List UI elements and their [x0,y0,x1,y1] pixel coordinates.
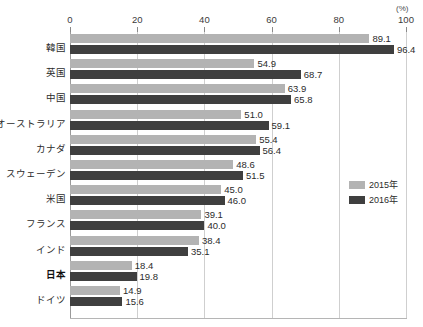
bar-row: スウェーデン48.651.5 [0,160,423,180]
bar-value-中国-2016年: 65.8 [294,95,313,104]
bar-value-カナダ-2015年: 55.4 [259,135,278,144]
legend-item-2015年[interactable]: 2015年 [349,178,398,191]
bar-value-インド-2016年: 35.1 [191,247,210,256]
legend-label: 2015年 [369,178,398,191]
bar-row: オーストラリア51.059.1 [0,110,423,130]
bar-米国-2015年 [70,185,221,194]
bar-カナダ-2016年 [70,146,260,155]
chart-legend: 2015年2016年 [349,178,398,206]
bar-value-オーストラリア-2015年: 51.0 [244,110,263,119]
bar-row: カナダ55.456.4 [0,135,423,155]
category-label-カナダ: カナダ [0,143,66,154]
category-label-英国: 英国 [0,67,66,78]
bar-スウェーデン-2015年 [70,160,233,169]
bar-value-日本-2016年: 19.8 [140,272,159,281]
bar-row: 韓国89.196.4 [0,34,423,54]
x-tick-label-100: 100 [398,14,414,25]
bar-row: 日本18.419.8 [0,261,423,281]
bar-value-カナダ-2016年: 56.4 [263,146,282,155]
bar-中国-2015年 [70,84,285,93]
bar-row: 中国63.965.8 [0,84,423,104]
bar-カナダ-2015年 [70,135,256,144]
bar-value-スウェーデン-2016年: 51.5 [246,171,265,180]
bar-value-フランス-2016年: 40.0 [207,221,226,230]
bar-ドイツ-2015年 [70,286,120,295]
bar-value-日本-2015年: 18.4 [135,261,154,270]
bar-value-韓国-2015年: 89.1 [372,34,391,43]
bar-フランス-2015年 [70,210,201,219]
bar-オーストラリア-2015年 [70,110,241,119]
axis-unit-label: (%) [396,4,408,13]
legend-swatch-icon-2016年 [349,196,365,204]
bar-英国-2015年 [70,59,254,68]
bar-row: ドイツ14.915.6 [0,286,423,306]
category-label-ドイツ: ドイツ [0,294,66,305]
category-label-米国: 米国 [0,193,66,204]
x-tick-label-0: 0 [67,14,72,25]
category-label-オーストラリア: オーストラリア [0,118,66,129]
bar-value-ドイツ-2015年: 14.9 [123,286,142,295]
category-label-日本: 日本 [0,269,66,280]
bar-value-英国-2015年: 54.9 [257,59,276,68]
bar-value-インド-2015年: 38.4 [202,236,221,245]
x-tick-label-80: 80 [334,14,345,25]
bar-ドイツ-2016年 [70,297,122,306]
category-label-韓国: 韓国 [0,42,66,53]
x-tick-label-40: 40 [199,14,210,25]
bar-韓国-2015年 [70,34,369,43]
bar-value-フランス-2015年: 39.1 [204,210,223,219]
bar-value-スウェーデン-2015年: 48.6 [236,160,255,169]
bar-value-韓国-2016年: 96.4 [397,45,416,54]
bar-フランス-2016年 [70,221,204,230]
bar-value-ドイツ-2016年: 15.6 [125,297,144,306]
bar-インド-2016年 [70,247,188,256]
legend-label: 2016年 [369,193,398,206]
bar-row: インド38.435.1 [0,236,423,256]
bar-value-オーストラリア-2016年: 59.1 [272,121,291,130]
plot-bottom-border [70,318,407,319]
legend-item-2016年[interactable]: 2016年 [349,193,398,206]
category-label-インド: インド [0,244,66,255]
bar-米国-2016年 [70,196,225,205]
bar-オーストラリア-2016年 [70,121,269,130]
bar-韓国-2016年 [70,45,394,54]
bar-スウェーデン-2016年 [70,171,243,180]
bar-row: 英国54.968.7 [0,59,423,79]
bar-value-米国-2016年: 46.0 [228,196,247,205]
x-tick-label-60: 60 [266,14,277,25]
bar-chart: (%) 020406080100 韓国89.196.4英国54.968.7中国6… [0,0,423,327]
legend-swatch-icon-2015年 [349,181,365,189]
bar-日本-2016年 [70,272,137,281]
bar-value-中国-2015年: 63.9 [288,84,307,93]
bar-value-英国-2016年: 68.7 [304,70,323,79]
category-label-スウェーデン: スウェーデン [0,168,66,179]
bar-row: フランス39.140.0 [0,210,423,230]
bar-value-米国-2015年: 45.0 [224,185,243,194]
bar-インド-2015年 [70,236,199,245]
bar-日本-2015年 [70,261,132,270]
category-label-フランス: フランス [0,218,66,229]
bar-中国-2016年 [70,95,291,104]
category-label-中国: 中国 [0,92,66,103]
bar-英国-2016年 [70,70,301,79]
x-tick-label-20: 20 [132,14,143,25]
